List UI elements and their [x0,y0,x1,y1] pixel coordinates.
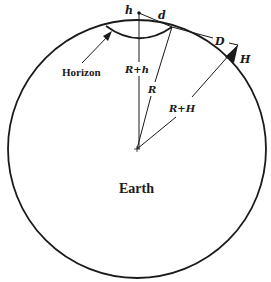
mountain-distance-line-left [172,27,213,38]
horizon-distance-label: d [158,9,166,22]
observer-height-label: h [125,4,133,17]
mountain-height-label: H [239,53,251,66]
mountain-shape [225,45,238,63]
mountain-distance-label: D [214,35,225,48]
mountain-radius-line-bottom [137,117,176,149]
mountain-radius-label: R+H [168,103,196,114]
mountain-distance-line-right [229,43,238,45]
horizon-label: Horizon [62,66,101,78]
earth-radius-label: R [147,84,156,95]
observer-radius-label: R+h [124,64,149,75]
earth-horizon-diagram: h d D H Horizon R+h R R+H Earth [0,0,271,282]
earth-label: Earth [119,181,154,196]
